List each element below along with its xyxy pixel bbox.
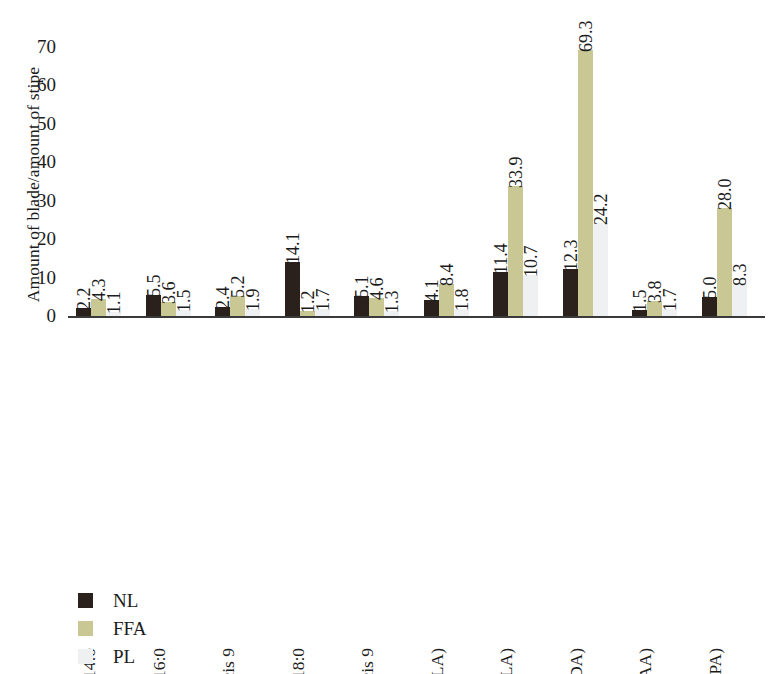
legend-item: NL [78, 586, 298, 614]
bar-slot: 14.1 [285, 0, 300, 316]
bar-nl [702, 297, 717, 316]
bar-slot: 8.3 [732, 0, 747, 316]
y-tick-label: 30 [22, 191, 56, 210]
y-tick-label: 40 [22, 152, 56, 171]
bar-value-label: 28.0 [718, 195, 733, 210]
legend-label: NL [113, 591, 138, 610]
bar-chart-figure: Amount of blade/amount of stipe 01020304… [0, 0, 769, 674]
x-category-label: C18:4 cis 6,9,12,15 (SDA) [567, 648, 585, 674]
bar-slot: 1.7 [315, 0, 330, 316]
legend: NLFFAPL [78, 586, 298, 670]
legend-item: PL [78, 642, 298, 670]
bar-value-label: 1.5 [177, 297, 192, 312]
bar-value-label: 14.1 [286, 249, 301, 264]
y-tick-label: 10 [22, 268, 56, 287]
y-axis-tick-labels: 010203040506070 [22, 0, 56, 674]
bar-slot: 4.6 [369, 0, 384, 316]
x-category-label: C18:2 cis 9,12 (LA) [428, 648, 446, 674]
bar-nl [424, 300, 439, 316]
bar-slot: 5.5 [146, 0, 161, 316]
bar-slot: 5.1 [354, 0, 369, 316]
bar-value-label: 12.3 [564, 256, 579, 271]
bar-value-label: 10.7 [524, 262, 539, 277]
x-category-label: C20:5 cis 5,8,11,14,17 (EPA) [706, 648, 724, 674]
bar-slot: 1.9 [245, 0, 260, 316]
bar-value-label: 5.0 [703, 284, 718, 299]
legend-swatch [78, 593, 93, 608]
bar-value-label: 69.3 [579, 37, 594, 52]
y-tick-label: 0 [22, 306, 56, 325]
bar-ffa [578, 50, 593, 316]
bar-slot: 24.2 [593, 0, 608, 316]
bar-slot: 2.2 [76, 0, 91, 316]
bar-slot: 8.4 [439, 0, 454, 316]
x-category-label: C18:1 cis 9 [358, 648, 376, 674]
bar-slot: 5.0 [702, 0, 717, 316]
bar-value-label: 11.4 [494, 259, 509, 274]
bar-slot: 2.4 [215, 0, 230, 316]
bar-ffa [717, 208, 732, 316]
x-category-label: C18:3 cis 9,12,15 (ALA) [497, 648, 515, 674]
plot-area: 2.24.31.15.53.61.52.45.21.914.11.21.75.1… [68, 0, 765, 674]
legend-swatch [78, 649, 93, 664]
y-tick-label: 70 [22, 37, 56, 56]
bar-value-label: 24.2 [594, 210, 609, 225]
legend-swatch [78, 621, 93, 636]
bar-value-label: 1.9 [246, 296, 261, 311]
bar-nl [563, 269, 578, 316]
bar-slot: 10.7 [523, 0, 538, 316]
y-tick-label: 20 [22, 229, 56, 248]
bar-value-label: 1.8 [455, 296, 470, 311]
bar-value-label: 8.4 [440, 271, 455, 286]
bar-pl [732, 284, 747, 316]
legend-item: FFA [78, 614, 298, 642]
bar-value-label: 1.7 [663, 296, 678, 311]
bar-slot: 1.5 [176, 0, 191, 316]
x-category-label: C20:4 cis 5,8,11,14 (AA) [636, 648, 654, 674]
bar-value-label: 1.3 [385, 298, 400, 313]
bar-slot: 3.6 [161, 0, 176, 316]
bar-slot: 3.8 [647, 0, 662, 316]
y-tick-label: 60 [22, 75, 56, 94]
bar-pl [593, 223, 608, 316]
bar-value-label: 1.1 [107, 299, 122, 314]
x-category-label-wrap: C18:2 cis 9,12 (LA) [428, 324, 474, 574]
x-category-label-wrap: C18:4 cis 6,9,12,15 (SDA) [567, 324, 613, 574]
bar-value-label: 1.7 [316, 296, 331, 311]
x-category-label-wrap: C18:3 cis 9,12,15 (ALA) [497, 324, 543, 574]
legend-label: PL [113, 647, 135, 666]
bar-slot: 5.2 [230, 0, 245, 316]
x-category-label-wrap: C16:1 cis 9 [219, 324, 265, 574]
bar-slot: 1.5 [632, 0, 647, 316]
bar-value-label: 4.1 [425, 287, 440, 302]
bar-slot: 69.3 [578, 0, 593, 316]
bar-slot: 1.8 [454, 0, 469, 316]
bar-slot: 4.3 [91, 0, 106, 316]
x-category-label-wrap: C16:0 [150, 324, 196, 574]
x-category-label-wrap: C18:1 cis 9 [358, 324, 404, 574]
bar-pl [523, 275, 538, 316]
x-category-label-wrap: C20:5 cis 5,8,11,14,17 (EPA) [706, 324, 752, 574]
x-category-label-wrap: C14:0 [80, 324, 126, 574]
bar-nl [493, 272, 508, 316]
y-tick-label: 50 [22, 114, 56, 133]
bar-slot: 1.1 [106, 0, 121, 316]
bar-slot: 1.3 [384, 0, 399, 316]
bar-slot: 1.2 [300, 0, 315, 316]
x-category-label-wrap: C18:0 [289, 324, 335, 574]
bar-value-label: 33.9 [509, 173, 524, 188]
bar-value-label: 8.3 [733, 271, 748, 286]
legend-label: FFA [113, 619, 146, 638]
bar-slot: 1.7 [662, 0, 677, 316]
x-category-label-wrap: C20:4 cis 5,8,11,14 (AA) [636, 324, 682, 574]
